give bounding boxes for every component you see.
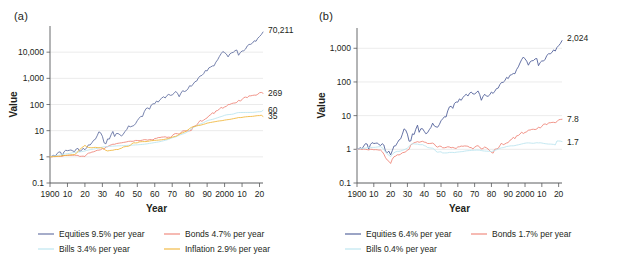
legend-label-equities: Equities 9.5% per year	[59, 229, 145, 239]
x-tick-label-5: 50	[133, 189, 143, 199]
end-label-equities: 70,211	[268, 25, 294, 35]
chart-svg-a: 0.11101001,00010,00019001020304050607080…	[0, 0, 308, 264]
x-tick-label-8: 80	[185, 189, 195, 199]
x-tick-label-7: 70	[470, 189, 480, 199]
x-tick-label-6: 60	[453, 189, 463, 199]
y-tick-label-0: 0.1	[339, 178, 351, 188]
y-tick-label-3: 100	[337, 77, 351, 87]
y-axis-title: Value	[8, 91, 19, 118]
x-tick-label-10: 2000	[516, 189, 535, 199]
x-tick-label-11: 10	[237, 189, 247, 199]
x-tick-label-5: 50	[436, 189, 446, 199]
x-tick-label-2: 20	[80, 189, 90, 199]
x-axis-title: Year	[449, 203, 470, 214]
y-tick-label-4: 1,000	[23, 73, 45, 83]
series-line-bonds	[357, 119, 562, 163]
legend-label-inflation: Inflation 2.9% per year	[185, 244, 270, 254]
x-tick-label-9: 90	[202, 189, 212, 199]
x-tick-label-12: 20	[255, 189, 265, 199]
legend-label-bonds: Bonds 1.7% per year	[492, 229, 572, 239]
legend-label-bills: Bills 3.4% per year	[59, 244, 130, 254]
x-tick-label-9: 90	[503, 189, 513, 199]
x-tick-label-1: 10	[369, 189, 379, 199]
x-axis-title: Year	[146, 203, 167, 214]
y-tick-label-3: 100	[30, 100, 44, 110]
x-tick-label-6: 60	[150, 189, 160, 199]
x-tick-label-3: 30	[403, 189, 413, 199]
legend-label-equities: Equities 6.4% per year	[366, 229, 452, 239]
y-tick-label-2: 10	[35, 126, 45, 136]
x-tick-label-0: 1900	[348, 189, 367, 199]
x-tick-label-1: 10	[63, 189, 73, 199]
end-label-bonds: 269	[268, 88, 282, 98]
x-tick-label-8: 80	[487, 189, 497, 199]
chart-panel-b: (b) 0.11101001,0001900102030405060708090…	[309, 0, 617, 264]
series-line-inflation	[50, 115, 263, 157]
chart-panel-a: (a) 0.11101001,00010,0001900102030405060…	[0, 0, 308, 264]
x-tick-label-10: 2000	[215, 189, 234, 199]
x-tick-label-0: 1900	[41, 189, 60, 199]
y-tick-label-1: 1	[346, 144, 351, 154]
x-tick-label-7: 70	[167, 189, 177, 199]
end-label-bonds: 7.8	[567, 114, 579, 124]
y-tick-label-4: 1,000	[330, 43, 352, 53]
y-tick-label-1: 1	[39, 152, 44, 162]
end-label-equities: 2,024	[567, 33, 589, 43]
x-tick-label-4: 40	[419, 189, 429, 199]
y-tick-label-2: 10	[342, 111, 352, 121]
x-tick-label-4: 40	[115, 189, 125, 199]
series-line-bills	[357, 141, 562, 157]
y-tick-label-5: 10,000	[18, 47, 44, 57]
series-line-equities	[357, 41, 562, 155]
x-tick-label-12: 20	[554, 189, 564, 199]
chart-svg-b: 0.11101001,00019001020304050607080902000…	[309, 0, 617, 264]
end-label-bills: 1.7	[567, 137, 579, 147]
y-axis-title: Value	[316, 92, 327, 119]
legend-label-bonds: Bonds 4.7% per year	[185, 229, 265, 239]
end-label-inflation: 35	[268, 111, 278, 121]
legend-label-bills: Bills 0.4% per year	[366, 244, 437, 254]
x-tick-label-11: 10	[537, 189, 547, 199]
y-tick-label-0: 0.1	[32, 178, 44, 188]
figure-root: (a) 0.11101001,00010,0001900102030405060…	[0, 0, 617, 264]
x-tick-label-2: 20	[386, 189, 396, 199]
x-tick-label-3: 30	[98, 189, 108, 199]
